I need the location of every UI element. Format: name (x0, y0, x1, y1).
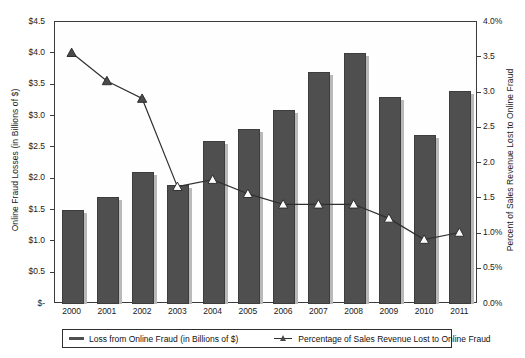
left-tick-label: $2.0 (19, 173, 45, 182)
right-tick-label: 3.5 (483, 52, 511, 61)
right-tick-label: 2.5 (483, 122, 511, 131)
x-tick-label: 2002 (122, 307, 162, 316)
percentage-marker[interactable] (455, 228, 464, 236)
right-tick-mark (477, 92, 481, 93)
percentage-marker[interactable] (138, 94, 147, 102)
right-tick-label: 0.0% (483, 299, 511, 308)
x-tick-label: 2011 (439, 307, 479, 316)
left-tick-label: $2.5 (19, 142, 45, 151)
chart-legend: Loss from Online Fraud (in Billions of $… (62, 329, 452, 348)
x-tick-label: 2006 (263, 307, 303, 316)
left-tick-label: $1.5 (19, 205, 45, 214)
x-tick-label: 2007 (298, 307, 338, 316)
x-tick-label: 2008 (334, 307, 374, 316)
percentage-marker[interactable] (384, 214, 393, 222)
x-tick-label: 2001 (87, 307, 127, 316)
left-tick-label: $- (19, 299, 45, 308)
left-tick-label: $3.5 (19, 79, 45, 88)
x-tick-label: 2000 (52, 307, 92, 316)
x-tick-label: 2010 (404, 307, 444, 316)
line-series-layer (54, 21, 477, 303)
fraud-losses-chart: Online Fraud Losses (in Billions of $) P… (0, 0, 525, 358)
percentage-marker[interactable] (102, 76, 111, 84)
left-tick-label: $4.5 (19, 17, 45, 26)
percentage-line (72, 53, 460, 240)
legend-line-label: Percentage of Sales Revenue Lost to Onli… (298, 334, 490, 344)
percentage-marker[interactable] (243, 189, 252, 197)
right-tick-label: 2.0 (483, 158, 511, 167)
right-tick-label: 4.0% (483, 17, 511, 26)
right-tick-mark (477, 268, 481, 269)
percentage-marker[interactable] (208, 175, 217, 183)
right-tick-label: 1.5 (483, 193, 511, 202)
left-tick-label: $4.0 (19, 48, 45, 57)
legend-bar-label: Loss from Online Fraud (in Billions of $… (89, 334, 238, 344)
right-tick-mark (477, 162, 481, 163)
right-tick-label: 0.5% (483, 263, 511, 272)
percentage-markers (67, 48, 464, 243)
right-tick-mark (477, 197, 481, 198)
x-tick-label: 2005 (228, 307, 268, 316)
right-tick-mark (477, 56, 481, 57)
legend-item-line[interactable]: Percentage of Sales Revenue Lost to Onli… (274, 334, 490, 344)
x-tick-label: 2003 (157, 307, 197, 316)
left-tick-label: $0.5 (19, 267, 45, 276)
legend-line-marker-icon (274, 334, 292, 343)
right-tick-mark (477, 127, 481, 128)
percentage-marker[interactable] (67, 48, 76, 56)
legend-item-bars[interactable]: Loss from Online Fraud (in Billions of $… (69, 334, 238, 344)
x-tick-label: 2009 (369, 307, 409, 316)
left-tick-label: $1.0 (19, 236, 45, 245)
right-tick-mark (477, 233, 481, 234)
right-tick-label: 3.0 (483, 87, 511, 96)
right-tick-label: 1.0% (483, 228, 511, 237)
x-tick-label: 2004 (193, 307, 233, 316)
legend-bar-swatch-icon (69, 337, 84, 340)
left-tick-label: $3.0 (19, 111, 45, 120)
